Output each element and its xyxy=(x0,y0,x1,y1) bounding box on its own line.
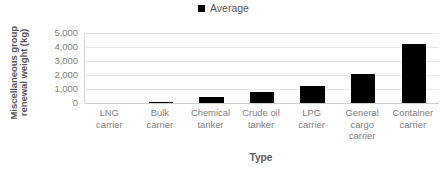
plot-area xyxy=(84,33,439,103)
bar[interactable] xyxy=(300,86,324,103)
y-axis-tick-labels: 01,0002,0003,0004,0005,000 xyxy=(30,27,80,109)
x-category-label: LNGcarrier xyxy=(84,107,135,142)
x-category-label-line: Chemical xyxy=(186,107,235,119)
x-category-label: Containercarrier xyxy=(387,107,438,142)
x-category-label-line: Bulk xyxy=(136,107,185,119)
bar[interactable] xyxy=(199,97,223,103)
x-category-label-line: cargo xyxy=(338,119,387,131)
x-category-label-line: LNG xyxy=(85,107,134,119)
bar-cell xyxy=(186,33,237,103)
x-category-label-line: carrier xyxy=(136,119,185,131)
y-tick-label: 3,000 xyxy=(55,56,78,65)
y-tick-label: 5,000 xyxy=(55,28,78,37)
x-category-label-line: carrier xyxy=(85,119,134,131)
bar-cell xyxy=(338,33,389,103)
y-tick-label: 4,000 xyxy=(55,42,78,51)
x-category-label: Bulkcarrier xyxy=(135,107,186,142)
x-category-label: Chemicaltanker xyxy=(185,107,236,142)
x-category-label: LPGcarrier xyxy=(286,107,337,142)
x-category-label-line: tanker xyxy=(237,119,286,131)
y-tick-label: 2,000 xyxy=(55,70,78,79)
bar-cell xyxy=(85,33,136,103)
x-axis-category-labels: LNGcarrierBulkcarrierChemicaltankerCrude… xyxy=(84,107,438,142)
x-category-label: Crude oiltanker xyxy=(236,107,287,142)
x-category-label-line: carrier xyxy=(287,119,336,131)
bar-cell xyxy=(237,33,288,103)
y-tick-label: 1,000 xyxy=(55,84,78,93)
x-category-label-line: carrier xyxy=(338,130,387,142)
x-category-label-line: Crude oil xyxy=(237,107,286,119)
legend-swatch-average-icon xyxy=(198,5,205,12)
bar-cell xyxy=(388,33,439,103)
legend-label-average: Average xyxy=(210,3,249,14)
x-category-label-line: carrier xyxy=(388,119,437,131)
bar[interactable] xyxy=(402,44,426,103)
bar[interactable] xyxy=(250,92,274,103)
x-category-label: Generalcargocarrier xyxy=(337,107,388,142)
chart-legend: Average xyxy=(0,3,447,14)
bar[interactable] xyxy=(149,102,173,103)
y-axis-title-line-2: renewal weight (kg) xyxy=(19,29,29,116)
x-category-label-line: tanker xyxy=(186,119,235,131)
bar-cell xyxy=(287,33,338,103)
bar[interactable] xyxy=(351,74,375,103)
y-axis-title: Miscellaneous group renewal weight (kg) xyxy=(6,14,32,132)
bar-series-average xyxy=(85,33,439,103)
x-category-label-line: Container xyxy=(388,107,437,119)
gridline xyxy=(85,103,439,104)
x-category-label-line: LPG xyxy=(287,107,336,119)
x-axis-title: Type xyxy=(84,152,438,163)
x-category-label-line: General xyxy=(338,107,387,119)
bar-cell xyxy=(136,33,187,103)
y-tick-label: 0 xyxy=(73,98,78,107)
